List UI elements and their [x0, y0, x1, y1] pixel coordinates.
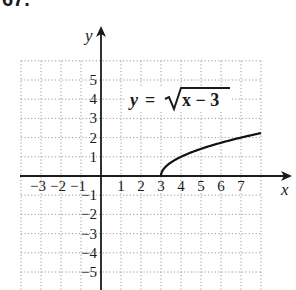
x-tick-label: 2 [137, 178, 145, 194]
x-tick-label: −2 [50, 178, 66, 194]
x-tick-label: 1 [117, 178, 125, 194]
x-tick-label: 5 [197, 178, 205, 194]
y-tick-label: −3 [81, 226, 97, 242]
equation-radicand: x − 3 [182, 90, 219, 110]
function-graph: −3−2−1123456754321−1−2−3−4−5 x y y = x −… [0, 0, 296, 290]
y-tick-label: 4 [90, 91, 98, 107]
equation-equals: = [145, 90, 155, 110]
curve-sqrt [161, 133, 261, 176]
x-tick-label: −3 [30, 178, 46, 194]
x-tick-label: 6 [217, 178, 225, 194]
y-tick-label: −1 [81, 187, 97, 203]
y-tick-label: 5 [90, 72, 98, 88]
x-axis-label: x [280, 180, 289, 199]
y-tick-label: 2 [90, 130, 98, 146]
equation-lhs: y [128, 90, 139, 110]
axes [20, 26, 292, 290]
x-tick-label: 4 [177, 178, 185, 194]
y-tick-label: −4 [81, 245, 97, 261]
y-tick-label: 1 [90, 149, 98, 165]
y-tick-label: −5 [81, 264, 97, 280]
y-tick-label: −2 [81, 206, 97, 222]
y-tick-label: 3 [90, 110, 98, 126]
equation-label: y = x − 3 [126, 86, 232, 112]
x-tick-label: 3 [157, 178, 165, 194]
x-tick-label: 7 [237, 178, 245, 194]
y-axis-label: y [83, 26, 93, 45]
